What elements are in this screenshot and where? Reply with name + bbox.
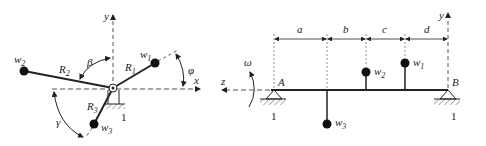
label-r3: R3 [86,100,98,115]
angle-phi-arc [176,54,184,86]
mass-w3 [90,120,99,129]
bearing-b-label: B [452,76,459,88]
dimension-lines: a b c d [275,23,447,39]
dim-a: a [297,23,303,35]
side-view-diagram: z ω y A 1 B 1 [220,9,460,131]
mass-w2-side [362,68,371,77]
shaft-balancing-diagram: y x w1 R1 w2 R2 w3 R3 1 φ [0,0,486,146]
bearing-b: B 1 [434,76,460,122]
dim-c: c [382,23,387,35]
angle-gamma-label: γ [56,116,61,128]
bearing-b-num: 1 [451,110,457,122]
label-r1: R1 [124,61,136,76]
label-w2: w2 [14,53,25,68]
angle-phi-label: φ [188,64,194,76]
y-axis-right-label: y [438,9,444,21]
label-w3: w3 [101,121,112,136]
mass-w1-side [401,59,410,68]
label-r2: R2 [58,63,70,78]
bearing-a: A 1 [260,76,286,122]
label-w3-side: w3 [335,116,346,131]
angle-gamma-arc [54,92,83,137]
label-w2-side: w2 [374,65,385,80]
dim-d: d [424,23,430,35]
end-view-diagram: y x w1 R1 w2 R2 w3 R3 1 φ [14,10,200,137]
angle-beta-arc [80,58,110,79]
mass-w3-side [323,120,332,129]
label-w1-side: w1 [413,56,424,71]
dim-b: b [343,23,349,35]
pivot-support: 1 [105,84,127,123]
label-w1: w1 [140,48,151,63]
mass-w1 [151,59,160,68]
bearing-a-label: A [277,76,285,88]
support-label: 1 [121,111,127,123]
angle-beta-label: β [86,56,93,68]
z-axis-label: z [220,75,226,87]
y-axis-label: y [103,10,109,22]
bearing-a-num: 1 [271,110,277,122]
rotation-label: ω [244,56,252,68]
